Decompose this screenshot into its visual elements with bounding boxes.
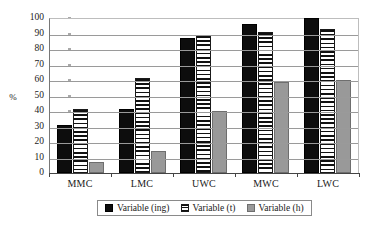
bar-mmc-series-2 bbox=[73, 109, 88, 173]
plot-area bbox=[49, 18, 359, 173]
legend-swatch-icon bbox=[247, 204, 255, 212]
legend-swatch-icon bbox=[105, 204, 113, 212]
x-tick-mark bbox=[111, 173, 112, 177]
legend-label: Variable (t) bbox=[193, 203, 236, 213]
x-axis-tick-labels: MMCLMCUWCMWCLWC bbox=[49, 178, 359, 189]
y-tick-label: 50 bbox=[35, 91, 45, 101]
legend-label: Variable (ing) bbox=[117, 203, 170, 213]
bar-mmc-series-3 bbox=[89, 162, 104, 173]
x-tick-label: MMC bbox=[49, 178, 111, 189]
gridline bbox=[50, 66, 358, 67]
bar-uwc-series-2 bbox=[196, 35, 211, 173]
gridline bbox=[50, 112, 358, 113]
x-tick-label: MWC bbox=[235, 178, 297, 189]
legend-item-1: Variable (ing) bbox=[105, 203, 170, 213]
gridline bbox=[50, 35, 358, 36]
bar-mwc-series-2 bbox=[258, 32, 273, 173]
bar-lmc-series-3 bbox=[151, 151, 166, 173]
x-tick-label: UWC bbox=[173, 178, 235, 189]
bar-mmc-series-1 bbox=[57, 125, 72, 173]
x-tick-label: LWC bbox=[297, 178, 359, 189]
gridline bbox=[50, 50, 358, 51]
y-tick-label: 10 bbox=[35, 153, 45, 163]
y-tick-label: 100 bbox=[30, 13, 44, 23]
gridline bbox=[50, 128, 358, 129]
x-tick-mark bbox=[297, 173, 298, 177]
legend-label: Variable (h) bbox=[259, 203, 304, 213]
gridline bbox=[50, 81, 358, 82]
legend-item-2: Variable (t) bbox=[181, 203, 236, 213]
legend-item-3: Variable (h) bbox=[247, 203, 304, 213]
gridline bbox=[50, 159, 358, 160]
y-tick-label: 90 bbox=[35, 29, 45, 39]
y-tick-label: 70 bbox=[35, 60, 45, 70]
y-tick-label: 80 bbox=[35, 44, 45, 54]
bar-lmc-series-1 bbox=[119, 109, 134, 173]
y-tick-label: 60 bbox=[35, 75, 45, 85]
legend-swatch-icon bbox=[181, 204, 189, 212]
y-axis-tick-labels: 1009080706050403020100 bbox=[22, 12, 46, 178]
x-tick-mark bbox=[359, 173, 360, 177]
bar-uwc-series-3 bbox=[212, 111, 227, 173]
y-tick-label: 0 bbox=[39, 168, 44, 178]
bar-chart: % 1009080706050403020100 MMCLMCUWCMWCLWC… bbox=[0, 0, 368, 230]
y-axis-title: % bbox=[5, 92, 21, 102]
y-tick-label: 30 bbox=[35, 122, 45, 132]
bar-mwc-series-1 bbox=[242, 24, 257, 173]
bar-uwc-series-1 bbox=[180, 38, 195, 173]
x-tick-mark bbox=[49, 173, 50, 177]
bar-lwc-series-1 bbox=[304, 18, 319, 173]
x-tick-label: LMC bbox=[111, 178, 173, 189]
x-tick-mark bbox=[235, 173, 236, 177]
gridline bbox=[50, 97, 358, 98]
y-tick-label: 40 bbox=[35, 106, 45, 116]
y-tick-label: 20 bbox=[35, 137, 45, 147]
x-tick-mark bbox=[173, 173, 174, 177]
gridline bbox=[50, 143, 358, 144]
chart-legend: Variable (ing)Variable (t)Variable (h) bbox=[97, 200, 312, 216]
